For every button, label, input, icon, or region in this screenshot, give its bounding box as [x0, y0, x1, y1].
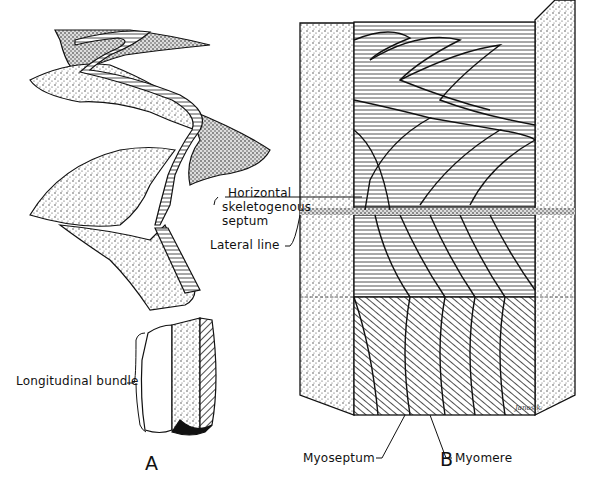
artist-signature: Janosik: [513, 404, 541, 412]
label-myomere: Myomere: [455, 451, 512, 465]
label-horizontal-septum-line3: septum: [222, 214, 268, 228]
label-myoseptum: Myoseptum: [303, 451, 375, 465]
label-lateral-line: Lateral line: [210, 238, 280, 252]
panel-label-b: B: [440, 448, 453, 470]
label-horizontal-septum-line2: skeletogenous: [222, 200, 311, 214]
label-horizontal-septum-line1: Horizontal: [228, 186, 291, 200]
label-longitudinal-bundle: Longitudinal bundle: [16, 374, 139, 388]
panel-label-a: A: [145, 452, 158, 474]
diagram-canvas: Janosik: [0, 0, 595, 478]
